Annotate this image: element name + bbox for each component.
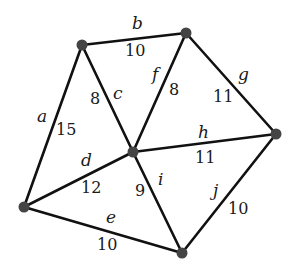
edge-g-weight: 11	[213, 87, 233, 106]
edge-e-name: e	[106, 207, 116, 227]
edge-h-weight: 11	[195, 148, 215, 167]
edge-a-name: a	[37, 106, 47, 126]
edge-i	[133, 152, 182, 253]
edge-b-name: b	[132, 13, 143, 33]
edge-g	[186, 33, 276, 134]
edge-i-weight: 9	[135, 181, 145, 200]
edge-a-weight: 15	[56, 120, 76, 139]
edge-h-name: h	[198, 122, 209, 142]
edge-d-weight: 12	[81, 178, 101, 197]
weighted-graph: a 15 b 10 c 8 d 12 e 10 f 8 g 11 h 11 i …	[0, 0, 290, 273]
edge-f-weight: 8	[169, 80, 179, 99]
vertex-center	[128, 147, 139, 158]
vertices	[19, 28, 282, 259]
edge-i-name: i	[158, 169, 163, 189]
vertex-left	[19, 202, 30, 213]
edge-c-weight: 8	[90, 89, 100, 108]
vertex-top-left	[77, 40, 88, 51]
edge-c-name: c	[113, 83, 123, 103]
vertex-bottom	[177, 248, 188, 259]
edge-d-name: d	[81, 150, 92, 170]
vertex-top-right	[181, 28, 192, 39]
edge-labels: a 15 b 10 c 8 d 12 e 10 f 8 g 11 h 11 i …	[37, 13, 249, 254]
edge-j-weight: 10	[228, 199, 248, 218]
edge-b-weight: 10	[125, 41, 145, 60]
edge-e-weight: 10	[97, 235, 117, 254]
edge-j-name: j	[209, 180, 219, 200]
edge-f-name: f	[150, 64, 161, 84]
vertex-right	[271, 129, 282, 140]
edge-g-name: g	[238, 64, 249, 84]
